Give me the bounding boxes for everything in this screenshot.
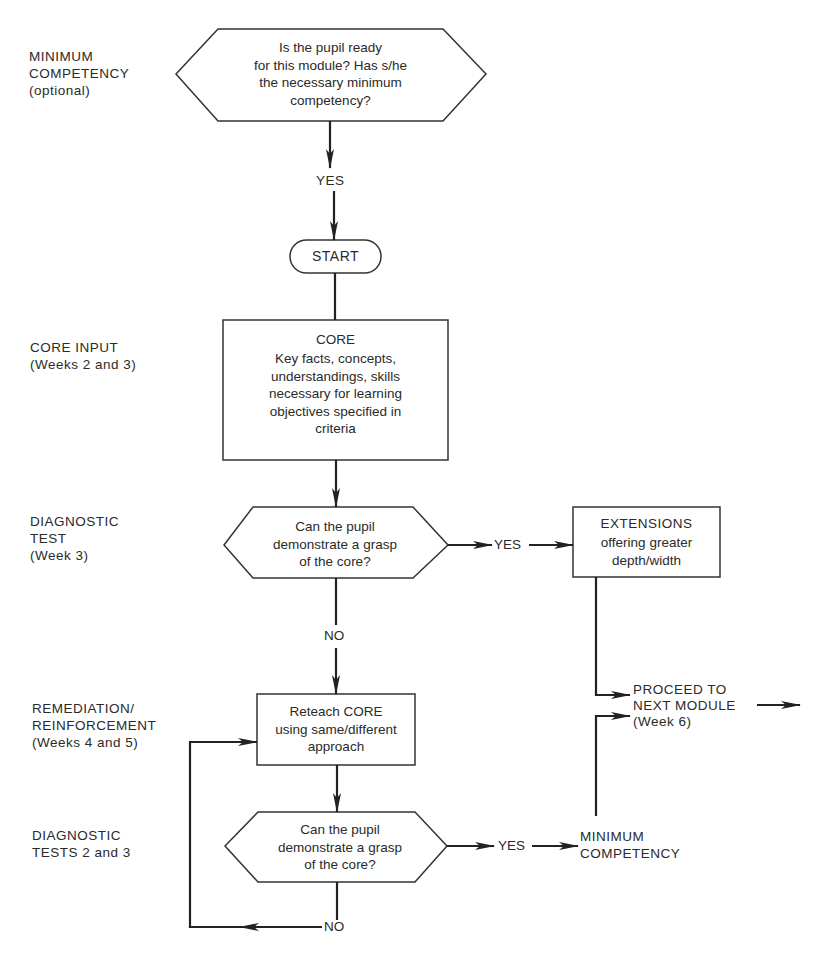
- readiness-question: Is the pupil ready for this module? Has …: [218, 39, 443, 109]
- stage-label-core-input: CORE INPUT (Weeks 2 and 3): [30, 339, 136, 373]
- edge-label-yes-diag1: YES: [494, 537, 521, 553]
- core-title: CORE: [223, 331, 448, 349]
- stage-label-diagnostic-test: DIAGNOSTIC TEST (Week 3): [30, 513, 119, 564]
- stage-label-remediation: REMEDIATION/ REINFORCEMENT (Weeks 4 and …: [32, 700, 156, 751]
- reteach-node: Reteach CORE using same/different approa…: [257, 703, 415, 756]
- diagnostic-2-question: Can the pupil demonstrate a grasp of the…: [245, 821, 435, 874]
- diagnostic-1-question: Can the pupil demonstrate a grasp of the…: [240, 518, 430, 571]
- edge-label-no-diag1: NO: [324, 628, 344, 644]
- stage-label-diagnostic-tests-2-3: DIAGNOSTIC TESTS 2 and 3: [32, 827, 131, 861]
- start-node: START: [290, 248, 381, 266]
- minimum-competency-outcome: MINIMUM COMPETENCY: [580, 828, 680, 862]
- extensions-body: offering greater depth/width: [573, 534, 720, 569]
- edge-label-yes-ready: YES: [316, 173, 345, 189]
- proceed-to-next-module: PROCEED TO NEXT MODULE (Week 6): [633, 682, 736, 730]
- edge-label-no-diag2: NO: [324, 919, 344, 935]
- extensions-title: EXTENSIONS: [573, 515, 720, 533]
- stage-label-minimum-competency: MINIMUM COMPETENCY (optional): [29, 48, 129, 99]
- core-body: Key facts, concepts, understandings, ski…: [223, 350, 448, 438]
- edge-label-yes-diag2: YES: [498, 838, 525, 854]
